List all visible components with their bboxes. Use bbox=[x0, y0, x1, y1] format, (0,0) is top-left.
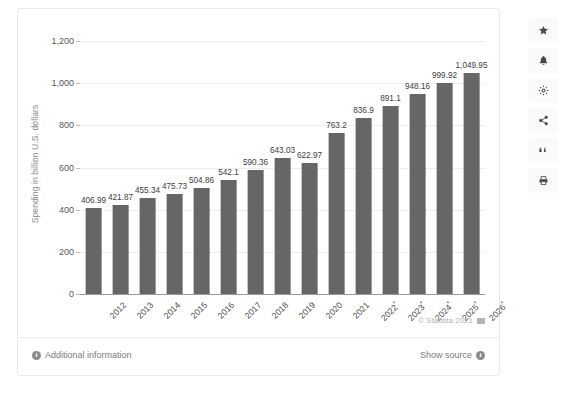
notify-button[interactable] bbox=[528, 48, 558, 73]
bar-group[interactable]: 836.9 bbox=[350, 41, 377, 294]
bar-group[interactable]: 891.1 bbox=[377, 41, 404, 294]
y-axis-tick-mark bbox=[76, 294, 80, 295]
y-axis-tick-label: 400 bbox=[59, 205, 74, 215]
bar-value-label: 891.1 bbox=[380, 94, 401, 103]
y-axis-tick-label: 1,000 bbox=[51, 78, 74, 88]
bar-value-label: 763.2 bbox=[326, 121, 347, 130]
y-axis-title: Spending in billion U.S. dollars bbox=[30, 84, 40, 244]
print-icon bbox=[538, 175, 549, 186]
x-axis-tick-label: 2016 bbox=[215, 300, 236, 321]
gear-icon bbox=[538, 85, 549, 96]
bar[interactable] bbox=[409, 94, 426, 294]
bar[interactable] bbox=[301, 163, 318, 294]
bar-group[interactable]: 504.86 bbox=[188, 41, 215, 294]
chart-bars: 406.99421.87455.34475.73504.86542.1590.3… bbox=[80, 41, 485, 294]
bar-value-label: 999.92 bbox=[432, 71, 457, 80]
bar-value-label: 590.36 bbox=[243, 158, 268, 167]
x-axis-tick-label: 2012 bbox=[107, 300, 128, 321]
bar-value-label: 421.87 bbox=[108, 193, 133, 202]
bar-group[interactable]: 455.34 bbox=[134, 41, 161, 294]
y-axis-tick-label: 0 bbox=[69, 289, 74, 299]
bar-value-label: 643.03 bbox=[270, 146, 295, 155]
x-axis-tick-label: 2014 bbox=[161, 300, 182, 321]
bar[interactable] bbox=[436, 83, 453, 294]
bar[interactable] bbox=[463, 73, 480, 294]
settings-button[interactable] bbox=[528, 78, 558, 103]
y-axis-tick-label: 600 bbox=[59, 163, 74, 173]
bar-value-label: 406.99 bbox=[81, 196, 106, 205]
x-axis-tick-label: 2026* bbox=[486, 300, 509, 323]
y-axis-tick-label: 1,200 bbox=[51, 36, 74, 46]
bar-value-label: 836.9 bbox=[353, 106, 374, 115]
cite-button[interactable] bbox=[528, 138, 558, 163]
y-axis-tick-label: 800 bbox=[59, 120, 74, 130]
show-source-button[interactable]: Show source i bbox=[420, 350, 485, 360]
side-toolbar bbox=[528, 18, 558, 193]
bar-value-label: 948.16 bbox=[405, 82, 430, 91]
bar-value-label: 622.97 bbox=[297, 151, 322, 160]
y-axis-tick-label: 200 bbox=[59, 247, 74, 257]
bar-group[interactable]: 542.1 bbox=[215, 41, 242, 294]
bar[interactable] bbox=[328, 133, 345, 294]
x-axis-tick-label: 2022* bbox=[378, 300, 401, 323]
star-icon bbox=[538, 25, 549, 36]
bar[interactable] bbox=[355, 118, 372, 294]
screenshot-root: Spending in billion U.S. dollars 0200400… bbox=[0, 0, 570, 398]
gridline: 0 bbox=[80, 294, 485, 295]
bar-value-label: 542.1 bbox=[218, 168, 239, 177]
bar-group[interactable]: 1,049.95 bbox=[458, 41, 485, 294]
bell-icon bbox=[538, 55, 549, 66]
favorite-button[interactable] bbox=[528, 18, 558, 43]
bar[interactable] bbox=[274, 158, 291, 294]
bar[interactable] bbox=[247, 170, 264, 294]
bar-group[interactable]: 590.36 bbox=[242, 41, 269, 294]
copyright-notice: © Statista 2021 bbox=[418, 316, 485, 325]
bar-value-label: 455.34 bbox=[135, 186, 160, 195]
x-axis-tick-label: 2020 bbox=[323, 300, 344, 321]
bar[interactable] bbox=[139, 198, 156, 294]
info-icon: i bbox=[32, 351, 41, 360]
bar-group[interactable]: 643.03 bbox=[269, 41, 296, 294]
bar-group[interactable]: 763.2 bbox=[323, 41, 350, 294]
copyright-text: © Statista 2021 bbox=[418, 316, 473, 325]
additional-information-button[interactable]: i Additional information bbox=[32, 350, 132, 360]
bar[interactable] bbox=[220, 180, 237, 294]
flag-icon bbox=[477, 318, 485, 324]
chart-card: Spending in billion U.S. dollars 0200400… bbox=[17, 8, 500, 376]
bar-group[interactable]: 475.73 bbox=[161, 41, 188, 294]
x-axis-tick-label: 2017 bbox=[242, 300, 263, 321]
x-axis-tick-label: 2019 bbox=[296, 300, 317, 321]
additional-information-label: Additional information bbox=[45, 350, 132, 360]
share-button[interactable] bbox=[528, 108, 558, 133]
bar-group[interactable]: 421.87 bbox=[107, 41, 134, 294]
x-axis-tick-label: 2015 bbox=[188, 300, 209, 321]
bar-value-label: 475.73 bbox=[162, 182, 187, 191]
bar-group[interactable]: 622.97 bbox=[296, 41, 323, 294]
card-footer: © Statista 2021 i Additional information… bbox=[18, 337, 499, 375]
info-icon: i bbox=[476, 351, 485, 360]
bar[interactable] bbox=[166, 194, 183, 294]
bar[interactable] bbox=[382, 106, 399, 294]
bar-value-label: 1,049.95 bbox=[456, 61, 488, 70]
bar-group[interactable]: 948.16 bbox=[404, 41, 431, 294]
quote-icon bbox=[538, 145, 549, 156]
x-axis-tick-label: 2018 bbox=[269, 300, 290, 321]
print-button[interactable] bbox=[528, 168, 558, 193]
bar-value-label: 504.86 bbox=[189, 176, 214, 185]
bar[interactable] bbox=[193, 188, 210, 294]
bar-group[interactable]: 999.92 bbox=[431, 41, 458, 294]
show-source-label: Show source bbox=[420, 350, 472, 360]
x-axis-tick-label: 2021 bbox=[350, 300, 371, 321]
bar[interactable] bbox=[85, 208, 102, 294]
bar-group[interactable]: 406.99 bbox=[80, 41, 107, 294]
chart-plot-area: Spending in billion U.S. dollars 0200400… bbox=[18, 9, 501, 339]
bar[interactable] bbox=[112, 205, 129, 294]
share-icon bbox=[538, 115, 549, 126]
x-axis-tick-label: 2013 bbox=[134, 300, 155, 321]
